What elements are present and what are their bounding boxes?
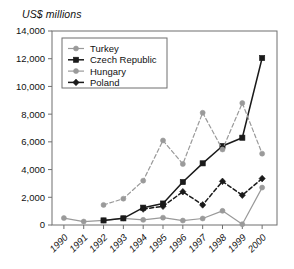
x-axis-tick-label: 1996 <box>166 231 189 254</box>
y-axis-ticks: 02,0004,0006,0008,00010,00012,00014,000 <box>16 25 52 230</box>
legend-marker <box>73 57 78 62</box>
x-axis-tick-label: 1995 <box>146 231 169 254</box>
data-point-marker <box>141 178 146 183</box>
data-point-marker <box>180 179 185 184</box>
legend-entry-label: Poland <box>90 77 120 88</box>
x-axis-ticks: 1990199119921993199419951996199719981999… <box>47 225 268 255</box>
data-point-marker <box>240 101 245 106</box>
y-axis-tick-label: 8,000 <box>21 109 45 120</box>
data-point-marker <box>141 217 146 222</box>
data-point-marker <box>260 151 265 156</box>
data-point-marker <box>240 135 245 140</box>
x-axis-tick-label: 1992 <box>87 231 110 254</box>
x-axis-tick-label: 1993 <box>107 231 130 254</box>
y-axis-tick-label: 4,000 <box>21 164 45 175</box>
y-axis-tick-label: 10,000 <box>16 81 45 92</box>
legend-entry-label: Turkey <box>90 43 119 54</box>
series-poland <box>140 175 265 212</box>
y-axis-tick-label: 6,000 <box>21 136 45 147</box>
data-point-marker <box>260 185 265 190</box>
data-point-marker <box>161 215 166 220</box>
data-point-marker <box>101 202 106 207</box>
x-axis-tick-label: 1998 <box>206 231 229 254</box>
data-point-marker <box>220 208 225 213</box>
legend-marker <box>74 69 79 74</box>
legend-marker <box>74 46 79 51</box>
x-axis-tick-label: 1991 <box>67 232 90 255</box>
data-point-marker <box>260 55 265 60</box>
line-chart: 02,0004,0006,0008,00010,00012,00014,000 … <box>0 0 294 269</box>
data-point-marker <box>101 218 106 223</box>
data-point-marker <box>240 222 245 227</box>
x-axis-tick-label: 1997 <box>186 231 209 254</box>
data-point-marker <box>161 138 166 143</box>
y-axis-tick-label: 12,000 <box>16 53 45 64</box>
y-axis-tick-label: 14,000 <box>16 25 45 36</box>
x-axis-tick-label: 2000 <box>245 231 269 255</box>
chart-legend: TurkeyCzech RepublicHungaryPoland <box>62 38 167 88</box>
legend-entry-label: Hungary <box>90 66 126 77</box>
data-point-marker <box>121 216 126 221</box>
x-axis-tick-label: 1990 <box>47 231 70 254</box>
y-axis-tick-label: 0 <box>40 219 45 230</box>
data-point-marker <box>180 218 185 223</box>
data-point-marker <box>200 216 205 221</box>
x-axis-tick-label: 1999 <box>225 231 248 254</box>
data-point-marker <box>200 110 205 115</box>
data-point-marker <box>61 216 66 221</box>
data-point-marker <box>180 162 185 167</box>
chart-figure: US$ millions 02,0004,0006,0008,00010,000… <box>0 0 294 269</box>
x-axis-tick-label: 1994 <box>126 232 149 255</box>
y-axis-tick-label: 2,000 <box>21 192 45 203</box>
data-point-marker <box>200 161 205 166</box>
data-point-marker <box>121 196 126 201</box>
data-point-marker <box>200 202 206 209</box>
data-point-marker <box>81 219 86 224</box>
legend-entry-label: Czech Republic <box>90 54 157 65</box>
data-point-marker <box>220 147 225 152</box>
